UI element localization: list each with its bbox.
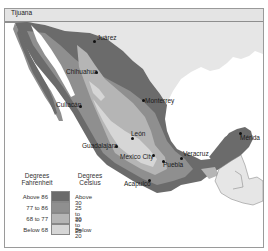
city-label-chihuahua: Chihuahua — [66, 69, 97, 76]
legend-fahrenheit-3: Below 68 — [6, 227, 48, 233]
legend-header-fahrenheit: Degrees Fahrenheit — [17, 172, 57, 186]
city-label-acapulco: Acapulco — [124, 181, 151, 188]
city-label-leon: León — [131, 131, 145, 138]
city-label-veracruz: Veracruz — [183, 151, 209, 158]
mexico-temperature-map — [5, 9, 263, 247]
legend-fahrenheit-1: 77 to 86 — [6, 205, 48, 211]
city-label-juarez: Juárez — [97, 35, 117, 42]
legend-header-celsius: Degrees Celsius — [73, 172, 107, 186]
city-label-guadalajara: Guadalajara — [82, 143, 117, 150]
legend-swatch-20-25 — [51, 213, 70, 224]
city-label-tijuana: Tijuana — [11, 10, 32, 17]
city-label-puebla: Puebla — [163, 162, 183, 169]
legend-celsius-3: Below 20 — [75, 227, 91, 239]
city-label-merida: Mérida — [240, 135, 260, 142]
legend-fahrenheit-0: Above 86 — [6, 194, 48, 200]
city-marker-juarez — [93, 40, 96, 43]
city-label-culiacan: Culiacán — [56, 102, 81, 109]
city-label-monterrey: Monterrey — [145, 98, 174, 105]
legend-fahrenheit-2: 68 to 77 — [6, 216, 48, 222]
legend-swatch-below-20 — [51, 224, 70, 235]
legend-swatch-25-30 — [51, 202, 70, 213]
map-frame: Tijuana Juárez Chihuahua Culiacán Monter… — [4, 8, 264, 248]
legend-swatch-above-30 — [51, 191, 70, 202]
city-label-mexico-city: Mexico City — [120, 154, 154, 161]
